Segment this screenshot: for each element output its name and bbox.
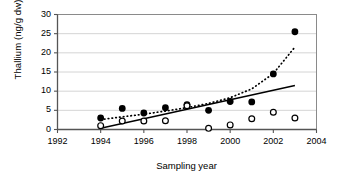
- data-point-filled-circles-1999: [205, 107, 212, 114]
- data-point-filled-circles-2003: [292, 28, 299, 35]
- x-tick-label-2004: 2004: [297, 136, 337, 146]
- x-tick-label-2000: 2000: [210, 136, 250, 146]
- x-tick-label-1996: 1996: [124, 136, 164, 146]
- data-point-filled-circles-2001: [248, 99, 255, 106]
- data-point-open-circles-1997: [163, 118, 169, 124]
- data-point-open-circles-1994: [98, 123, 104, 129]
- trendline-dotted-trend-curve: [101, 47, 295, 119]
- y-tick-label-20: 20: [29, 47, 51, 57]
- data-point-filled-circles-1996: [140, 110, 147, 117]
- y-tick-label-30: 30: [29, 9, 51, 19]
- y-tick-label-5: 5: [29, 104, 51, 114]
- x-tick-label-2002: 2002: [253, 136, 293, 146]
- data-point-open-circles-2002: [270, 109, 276, 115]
- data-point-filled-circles-2000: [227, 98, 234, 105]
- x-tick-label-1994: 1994: [81, 136, 121, 146]
- data-point-filled-circles-1997: [162, 104, 169, 111]
- data-point-open-circles-2003: [292, 115, 298, 121]
- data-point-open-circles-1999: [206, 125, 212, 131]
- y-tick-label-10: 10: [29, 85, 51, 95]
- y-tick-label-25: 25: [29, 28, 51, 38]
- data-point-open-circles-2001: [249, 116, 255, 122]
- y-tick-label-0: 0: [29, 124, 51, 134]
- x-tick-label-1998: 1998: [167, 136, 207, 146]
- trendline-solid-trend-line: [101, 85, 295, 128]
- data-point-open-circles-1996: [141, 118, 147, 124]
- data-point-open-circles-1995: [119, 118, 125, 124]
- plot-canvas: [0, 0, 360, 181]
- chart-figure: Thallium (ng/g dw) Sampling year 0510152…: [0, 0, 360, 181]
- data-point-open-circles-1998: [184, 103, 190, 109]
- data-point-filled-circles-1994: [97, 115, 104, 122]
- data-point-filled-circles-1995: [119, 105, 126, 112]
- y-tick-label-15: 15: [29, 66, 51, 76]
- data-point-filled-circles-2002: [270, 71, 277, 78]
- x-tick-label-1992: 1992: [38, 136, 78, 146]
- data-point-open-circles-2000: [227, 122, 233, 128]
